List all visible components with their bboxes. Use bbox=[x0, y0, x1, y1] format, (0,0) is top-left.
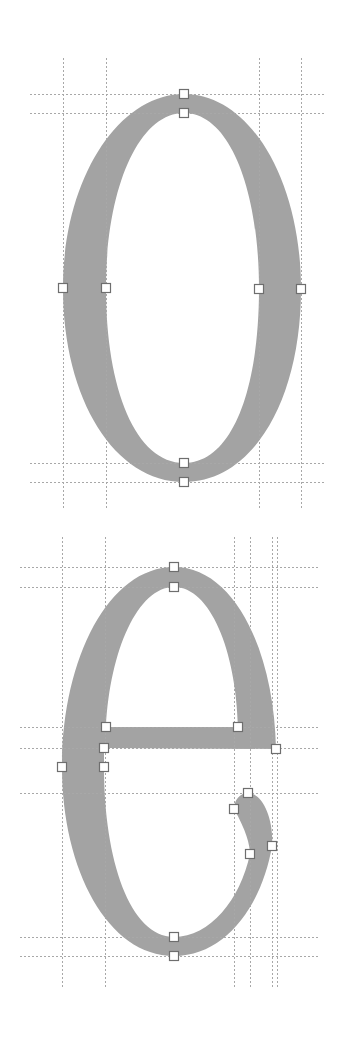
control-point-handle[interactable] bbox=[102, 723, 111, 732]
control-point-handle[interactable] bbox=[170, 952, 179, 961]
control-point-handle[interactable] bbox=[234, 723, 243, 732]
control-point-handle[interactable] bbox=[170, 933, 179, 942]
control-point-handle[interactable] bbox=[268, 842, 277, 851]
control-point-handle[interactable] bbox=[180, 90, 189, 99]
glyph-e-outline bbox=[62, 567, 276, 956]
glyph-construction-diagram bbox=[0, 0, 351, 1042]
control-point-handle[interactable] bbox=[297, 285, 306, 294]
control-point-handle[interactable] bbox=[170, 563, 179, 572]
control-point-handle[interactable] bbox=[58, 763, 67, 772]
glyph-e bbox=[20, 537, 320, 988]
control-point-handle[interactable] bbox=[180, 459, 189, 468]
control-point-handle[interactable] bbox=[170, 583, 179, 592]
glyph-zero-outline bbox=[63, 94, 301, 482]
control-point-handle[interactable] bbox=[180, 109, 189, 118]
glyph-zero bbox=[30, 58, 326, 508]
control-point-handle[interactable] bbox=[272, 745, 281, 754]
control-point-handle[interactable] bbox=[230, 805, 239, 814]
control-point-handle[interactable] bbox=[244, 789, 253, 798]
control-point-handle[interactable] bbox=[100, 763, 109, 772]
control-point-handle[interactable] bbox=[59, 284, 68, 293]
control-point-handle[interactable] bbox=[255, 285, 264, 294]
control-point-handle[interactable] bbox=[246, 850, 255, 859]
control-point-handle[interactable] bbox=[180, 478, 189, 487]
control-point-handle[interactable] bbox=[100, 744, 109, 753]
control-point-handle[interactable] bbox=[102, 284, 111, 293]
